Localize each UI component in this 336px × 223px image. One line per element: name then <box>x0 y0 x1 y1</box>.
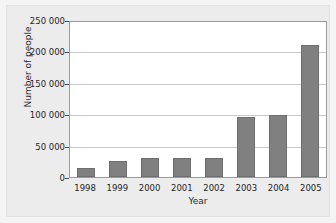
bar-2000 <box>141 158 159 177</box>
bar-2004 <box>269 115 287 177</box>
x-tick-label: 2003 <box>230 179 262 195</box>
bar-slot <box>134 22 166 177</box>
plot-area <box>69 21 327 178</box>
bar-slot <box>70 22 102 177</box>
x-tick-label: 2001 <box>166 179 198 195</box>
bar-2002 <box>205 158 223 177</box>
y-tick-label: 250 000 <box>17 17 65 25</box>
bar-slot <box>198 22 230 177</box>
x-tick-label: 2000 <box>134 179 166 195</box>
figure-background: Number of people 050 000100 000150 00020… <box>6 5 330 217</box>
x-tick-label: 2005 <box>295 179 327 195</box>
x-axis-title: Year <box>69 196 327 206</box>
y-tick-label: 150 000 <box>17 80 65 88</box>
y-tick-label: 100 000 <box>17 111 65 119</box>
bar-2001 <box>173 158 191 177</box>
bar-1998 <box>77 168 95 177</box>
bar-1999 <box>109 161 127 177</box>
bar-slot <box>294 22 326 177</box>
y-tick-label: 200 000 <box>17 48 65 56</box>
bar-series <box>70 22 326 177</box>
y-tick-label: 0 <box>17 174 65 182</box>
y-axis-tick-labels: 050 000100 000150 000200 000250 000 <box>15 16 65 186</box>
bar-slot <box>166 22 198 177</box>
bar-slot <box>102 22 134 177</box>
bar-slot <box>262 22 294 177</box>
bar-slot <box>230 22 262 177</box>
bar-2003 <box>237 117 255 177</box>
figure: Number of people 050 000100 000150 00020… <box>0 0 336 223</box>
bar-2005 <box>301 45 319 177</box>
y-tick-label: 50 000 <box>17 143 65 151</box>
x-tick-label: 1999 <box>101 179 133 195</box>
plot-clip <box>70 22 326 177</box>
x-tick-label: 1998 <box>69 179 101 195</box>
x-tick-label: 2004 <box>263 179 295 195</box>
x-tick-label: 2002 <box>198 179 230 195</box>
x-axis-tick-labels: 19981999200020012002200320042005 <box>69 179 327 195</box>
